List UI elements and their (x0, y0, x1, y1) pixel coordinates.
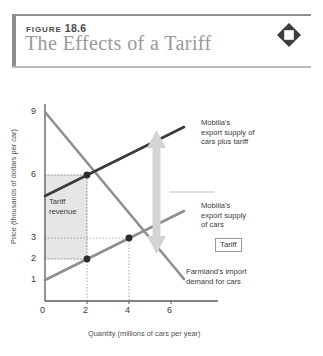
xtick-2: 2 (83, 305, 88, 315)
page-title: The Effects of a Tariff (25, 32, 212, 55)
label-line-2: export supply of (201, 128, 255, 138)
label-line-2: export supply (201, 211, 246, 221)
label-export-supply-plus-tariff: Mobilia's export supply of cars plus tar… (201, 118, 255, 147)
label-line-1: Mobilia's (201, 201, 246, 211)
label-line-1: Mobilia's (201, 118, 255, 128)
tariff-revenue-region (45, 175, 87, 259)
header-left-bar (12, 14, 16, 68)
xtick-6: 6 (167, 305, 172, 315)
y-axis-label: Price (thousands of dollars per car) (9, 112, 18, 262)
ytick-6: 6 (31, 169, 36, 179)
label-line-1: Farmland's import (186, 267, 247, 277)
chart-area: 9 6 3 2 1 0 2 4 6 Price (thousands of do… (0, 86, 323, 356)
point-tariff-equilibrium (84, 172, 91, 179)
point-supply-price (84, 256, 91, 263)
figure-header: FIGURE 18.6 The Effects of a Tariff (12, 14, 311, 68)
tariff-revenue-line1: Tariff (49, 197, 76, 207)
label-export-supply: Mobilia's export supply of cars (201, 201, 246, 230)
label-import-demand: Farmland's import demand for cars (186, 267, 247, 286)
xtick-0: 0 (40, 305, 45, 315)
ytick-1: 1 (31, 274, 36, 284)
label-line-3: of cars (201, 220, 246, 230)
tariff-arrow (147, 130, 166, 254)
label-line-2: demand for cars (186, 277, 247, 287)
ytick-9: 9 (31, 106, 36, 116)
tariff-revenue-label: Tariff revenue (49, 197, 76, 217)
diamond-icon (276, 22, 302, 48)
header-top-rule (12, 14, 311, 16)
ytick-2: 2 (31, 253, 36, 263)
point-free-trade-equilibrium (126, 235, 133, 242)
tariff-revenue-line2: revenue (49, 207, 76, 217)
label-line-3: cars plus tariff (201, 137, 255, 147)
xtick-4: 4 (125, 305, 130, 315)
ytick-3: 3 (31, 232, 36, 242)
x-axis-label: Quantity (millions of cars per year) (88, 329, 201, 338)
tariff-callout-box: Tariff (215, 238, 242, 252)
chart-canvas (0, 86, 323, 356)
header-bottom-rule (12, 66, 311, 68)
